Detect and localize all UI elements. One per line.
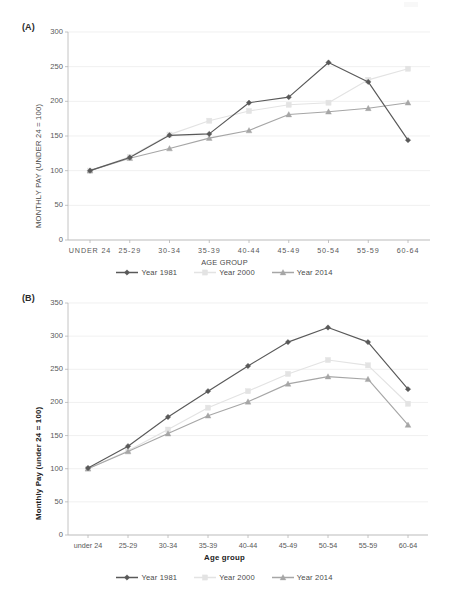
chart-b-plot-area [68, 303, 428, 535]
legend-label: Year 1981 [141, 573, 177, 582]
data-point [205, 405, 210, 410]
legend-item-year-1981[interactable]: Year 1981 [116, 268, 177, 277]
legend-item-year-2014[interactable]: Year 2014 [272, 268, 333, 277]
chart-b-legend: Year 1981Year 2000Year 2014 [0, 573, 449, 582]
x-axis-tick-label: 60-64 [379, 246, 437, 255]
y-axis-tick-label: 250 [37, 62, 63, 71]
data-point [405, 401, 410, 406]
chart-a-svg [68, 32, 430, 240]
legend-marker-icon [272, 268, 294, 277]
panel-b-label: (B) [22, 293, 35, 303]
data-point [245, 363, 250, 368]
legend-label: Year 1981 [141, 268, 177, 277]
y-axis-tick-label: 100 [37, 464, 63, 473]
legend-label: Year 2014 [297, 268, 333, 277]
legend-marker-icon [194, 573, 216, 582]
legend-label: Year 2000 [219, 573, 255, 582]
y-axis-tick-label: 150 [37, 131, 63, 140]
data-point [207, 118, 212, 123]
series-year-2014 [85, 374, 411, 471]
series-year-2000 [85, 357, 410, 471]
legend-marker-icon [116, 268, 138, 277]
chart-b-svg [68, 303, 428, 535]
chart-b-x-axis-title: Age group [0, 553, 449, 562]
panel-a-label: (A) [22, 22, 35, 32]
y-axis-tick-label: 200 [37, 96, 63, 105]
y-axis-tick-label: 350 [37, 298, 63, 307]
data-point [246, 108, 251, 113]
figure-page: (A) MONTHLY PAY (UNDER 24 = 100) AGE GRO… [0, 0, 449, 597]
data-point [245, 389, 250, 394]
y-axis-tick-label: 300 [37, 331, 63, 340]
data-point [245, 399, 251, 404]
legend-item-year-2000[interactable]: Year 2000 [194, 268, 255, 277]
y-axis-tick-label: 200 [37, 397, 63, 406]
chart-a-x-axis-title: AGE GROUP [0, 258, 449, 267]
chart-panel-a: (A) MONTHLY PAY (UNDER 24 = 100) AGE GRO… [0, 0, 449, 290]
y-axis-tick-label: 250 [37, 364, 63, 373]
legend-marker-icon [272, 573, 294, 582]
y-axis-tick-label: 300 [37, 27, 63, 36]
x-axis-tick-label: 60-64 [379, 541, 437, 550]
legend-item-year-2000[interactable]: Year 2000 [194, 573, 255, 582]
data-point [365, 363, 370, 368]
chart-a-legend: Year 1981Year 2000Year 2014 [0, 268, 449, 277]
legend-marker-icon [194, 268, 216, 277]
data-point [326, 100, 331, 105]
chart-panel-b: (B) Monthly Pay (under 24 = 100) Age gro… [0, 288, 449, 597]
data-point [405, 66, 410, 71]
y-axis-tick-label: 100 [37, 166, 63, 175]
chart-a-plot-area [68, 32, 430, 240]
legend-marker-icon [116, 573, 138, 582]
data-point [325, 357, 330, 362]
legend-label: Year 2014 [297, 573, 333, 582]
y-axis-tick-label: 50 [37, 200, 63, 209]
y-axis-tick-label: 50 [37, 497, 63, 506]
data-point [325, 325, 330, 330]
y-axis-tick-label: 0 [37, 530, 63, 539]
legend-item-year-1981[interactable]: Year 1981 [116, 573, 177, 582]
y-axis-tick-label: 150 [37, 431, 63, 440]
legend-label: Year 2000 [219, 268, 255, 277]
y-axis-tick-label: 0 [37, 235, 63, 244]
data-point [285, 339, 290, 344]
data-point [285, 371, 290, 376]
legend-item-year-2014[interactable]: Year 2014 [272, 573, 333, 582]
data-point [286, 102, 291, 107]
